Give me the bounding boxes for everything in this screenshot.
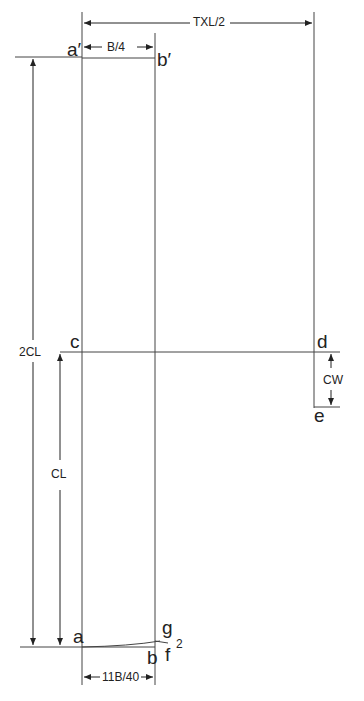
point-a-prime: a′ (67, 40, 81, 59)
dim-cl: CL (50, 468, 67, 480)
point-g: g (162, 618, 173, 637)
dim-cw: CW (322, 374, 344, 386)
diagram-canvas (0, 0, 364, 701)
point-b: b (147, 648, 158, 667)
dim-11b-40: 11B/40 (101, 671, 140, 683)
point-f: f (165, 645, 170, 664)
line-g-f (155, 641, 168, 643)
dim-txl-half: TXL/2 (192, 16, 226, 28)
point-a: a (73, 627, 84, 646)
point-d: d (317, 332, 328, 351)
dim-b-quarter: B/4 (106, 41, 126, 53)
point-e: e (314, 406, 325, 425)
dim-2cl: 2CL (18, 346, 42, 358)
point-c: c (70, 332, 80, 351)
point-f-subscript: 2 (176, 638, 183, 650)
point-b-prime: b′ (157, 50, 171, 69)
